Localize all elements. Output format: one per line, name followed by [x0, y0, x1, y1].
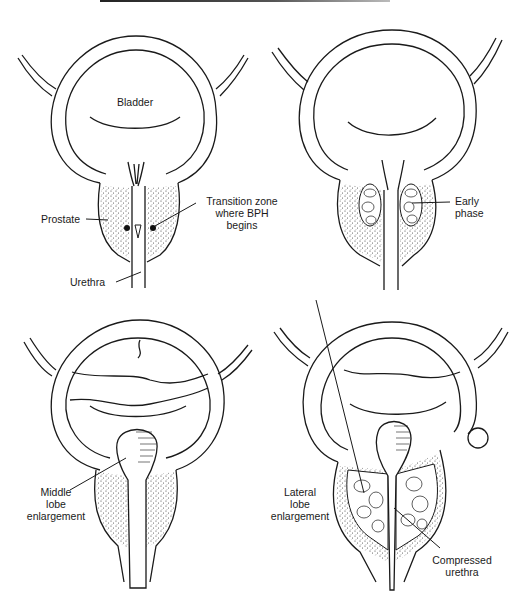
label-middle-line2: lobe [18, 498, 94, 510]
panel-normal-anatomy [0, 0, 264, 300]
label-lateral-lobe: Lateral lobe enlargement [270, 486, 330, 522]
label-compressed-line1: Compressed [420, 554, 504, 566]
panel-middle-lobe [0, 300, 264, 599]
label-compressed-urethra: Compressed urethra [420, 554, 504, 578]
label-compressed-line2: urethra [420, 566, 504, 578]
label-early-phase: Early phase [455, 195, 484, 219]
label-middle-line3: enlargement [18, 510, 94, 522]
label-lateral-line2: lobe [270, 498, 330, 510]
label-early-line1: Early [455, 195, 484, 207]
label-middle-lobe: Middle lobe enlargement [18, 486, 94, 522]
label-early-line2: phase [455, 207, 484, 219]
label-lateral-line3: enlargement [270, 510, 330, 522]
label-prostate: Prostate [41, 213, 80, 225]
label-middle-line1: Middle [18, 486, 94, 498]
panel-early-phase [264, 0, 529, 300]
label-lateral-line1: Lateral [270, 486, 330, 498]
label-bladder: Bladder [117, 96, 153, 108]
label-urethra: Urethra [70, 276, 105, 288]
